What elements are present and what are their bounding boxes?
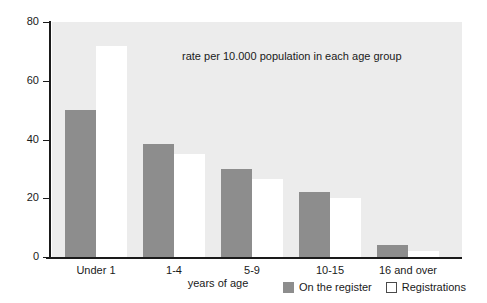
y-axis-tick-label-wrap: 60: [0, 75, 39, 86]
y-axis-tick-label: 0: [5, 251, 39, 262]
y-axis-tick-label: 40: [5, 134, 39, 145]
legend-entry: Registrations: [386, 281, 466, 293]
y-axis-tick: [43, 81, 50, 82]
chart-legend: On the registerRegistrations: [283, 281, 466, 293]
bar-chart: 020406080 Under 11-45-910-1516 and over …: [0, 0, 487, 303]
y-axis-tick: [43, 257, 50, 258]
y-axis-tick: [43, 198, 50, 199]
legend-swatch-icon: [283, 282, 294, 293]
bar: [330, 198, 361, 257]
y-axis-tick-label-wrap: 0: [0, 251, 39, 262]
y-axis-tick: [43, 140, 50, 141]
x-axis-title: years of age: [163, 277, 273, 289]
bar: [65, 110, 96, 257]
bar: [143, 144, 174, 257]
bar: [221, 169, 252, 257]
bar: [408, 251, 439, 257]
legend-label: Registrations: [402, 281, 466, 293]
y-axis-tick: [43, 22, 50, 23]
bar: [377, 245, 408, 257]
bar: [96, 46, 127, 258]
bar: [299, 192, 330, 257]
x-axis-line: [46, 257, 462, 259]
x-axis-category-label: 16 and over: [358, 264, 458, 276]
y-axis-tick-label: 60: [5, 75, 39, 86]
legend-label: On the register: [299, 281, 372, 293]
legend-entry: On the register: [283, 281, 372, 293]
y-axis-tick-label-wrap: 20: [0, 192, 39, 203]
y-axis-tick-label: 80: [5, 16, 39, 27]
chart-annotation: rate per 10.000 population in each age g…: [182, 50, 402, 63]
legend-swatch-icon: [386, 282, 397, 293]
y-axis-tick-label: 20: [5, 192, 39, 203]
bar: [174, 154, 205, 257]
bar: [252, 179, 283, 257]
y-axis-tick-label-wrap: 80: [0, 16, 39, 27]
y-axis-tick-label-wrap: 40: [0, 134, 39, 145]
